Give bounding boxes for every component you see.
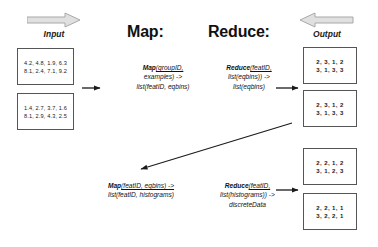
map-bottom-formula: Map(featID, eqbins) -> list(featID, hist… — [86, 181, 196, 200]
map-stage-heading: Map: — [127, 23, 164, 41]
output-data-row: 3, 1, 3, 3 — [316, 66, 343, 74]
reduce-bottom-line2: list(histograms)) -> — [200, 190, 295, 199]
input-data-row: 8.1, 2.4, 7.1, 9.2 — [24, 67, 67, 75]
reduce-top-line2: list(eqbins)) -> — [203, 72, 295, 81]
output-data-row: 3, 1, 2, 3 — [316, 167, 343, 175]
output-data-row: 3, 2, 2, 1 — [316, 212, 343, 220]
reduce-bottom-args: (featID, — [249, 182, 271, 189]
input-data-row: 8.1, 2.9, 4.3, 2.5 — [24, 112, 67, 120]
input-data-box: 1.4, 2.7, 3.7, 1.6 8.1, 2.9, 4.3, 2.5 — [17, 93, 74, 130]
input-data-row: 1.4, 2.7, 3.7, 1.6 — [24, 104, 67, 112]
output-data-box: 2, 3, 1, 2 3, 1, 3, 3 — [303, 90, 357, 127]
output-data-row: 3, 1, 3, 3 — [316, 109, 343, 117]
mapreduce-pipeline-diagram: Input Output Map: Reduce: 4.2, 4.8, 1.9,… — [0, 0, 378, 247]
output-column-label: Output — [299, 29, 355, 39]
map-bottom-fn-name: Map — [108, 182, 121, 189]
reduce-bottom-fn-name: Reduce — [225, 182, 249, 189]
map-top-fn-name: Map — [143, 64, 156, 71]
output-data-row: 2, 3, 1, 2 — [316, 101, 343, 109]
map-top-args: (groupID, — [156, 64, 184, 71]
reduce-stage-heading: Reduce: — [208, 23, 270, 41]
input-data-row: 4.2, 4.8, 1.9, 6.3 — [24, 59, 67, 67]
reduce-top-line3: list(eqbins) — [203, 82, 295, 91]
map-bottom-line2: list(featID, histograms) — [86, 190, 196, 199]
reduce-bottom-formula: Reduce(featID, list(histograms)) -> disc… — [200, 181, 295, 209]
reduce-top-fn-name: Reduce — [226, 64, 250, 71]
output-data-row: 2, 2, 1, 2 — [316, 159, 343, 167]
input-column-label: Input — [26, 29, 82, 39]
output-data-row: 2, 3, 1, 2 — [316, 58, 343, 66]
map-top-formula: Map(groupID, examples) -> list(featID, e… — [115, 63, 211, 91]
stage-one-to-stage-two-arrow — [141, 123, 292, 169]
reduce-bottom-line3: discreteData — [200, 200, 295, 209]
output-data-box: 2, 2, 1, 2 3, 1, 2, 3 — [303, 148, 357, 185]
input-data-box: 4.2, 4.8, 1.9, 6.3 8.1, 2.4, 7.1, 9.2 — [17, 48, 74, 85]
reduce-top-args: (featID, — [250, 64, 272, 71]
map-top-line3: list(featID, eqbins) — [115, 82, 211, 91]
map-top-line2: examples) -> — [115, 72, 211, 81]
output-data-row: 2, 2, 1, 1 — [316, 204, 343, 212]
output-data-box: 2, 3, 1, 2 3, 1, 3, 3 — [303, 47, 357, 84]
map-bottom-args: (featID, eqbins) -> — [121, 182, 174, 189]
reduce-top-formula: Reduce(featID, list(eqbins)) -> list(eqb… — [203, 63, 295, 91]
output-data-box: 2, 2, 1, 1 3, 2, 2, 1 — [303, 193, 357, 230]
